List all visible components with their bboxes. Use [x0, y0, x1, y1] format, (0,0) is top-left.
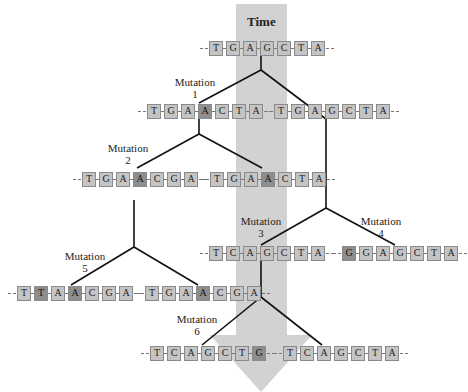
base: G: [325, 104, 339, 119]
sequence-mutation-4: G G A G C T A: [332, 245, 468, 261]
sequence-mutation-1-copy: T G A A C T A: [200, 171, 336, 187]
base: G: [201, 346, 215, 361]
mutation-2-label: Mutation 2: [103, 142, 153, 166]
base: G: [102, 286, 116, 301]
base: A: [184, 346, 198, 361]
base: T: [359, 104, 373, 119]
base: C: [351, 346, 365, 361]
base: C: [342, 104, 356, 119]
base: G: [260, 41, 274, 56]
sequence-mutation-6: T C A G C T G: [140, 345, 276, 361]
base: T: [145, 286, 159, 301]
sequence-mutation-1: T G A A C T A: [137, 103, 273, 119]
mutated-base: A: [198, 104, 212, 119]
base: T: [294, 246, 308, 261]
base: A: [311, 41, 325, 56]
base: T: [427, 246, 441, 261]
base: T: [274, 104, 288, 119]
base: A: [243, 41, 257, 56]
base: C: [85, 286, 99, 301]
base: A: [116, 172, 130, 187]
base: G: [359, 246, 373, 261]
base: C: [218, 346, 232, 361]
base: A: [184, 172, 198, 187]
base: G: [99, 172, 113, 187]
base: T: [232, 104, 246, 119]
base: C: [300, 346, 314, 361]
sequence-mutation-2: T G A A C G A: [72, 171, 208, 187]
base: G: [230, 286, 244, 301]
base: T: [210, 172, 224, 187]
base: T: [294, 41, 308, 56]
base: A: [376, 104, 390, 119]
base: A: [308, 104, 322, 119]
base: A: [444, 246, 458, 261]
base: T: [235, 346, 249, 361]
base: G: [167, 172, 181, 187]
mutation-6-label: Mutation 6: [172, 313, 222, 337]
base: T: [368, 346, 382, 361]
base: A: [119, 286, 133, 301]
base: C: [213, 286, 227, 301]
mutated-base: A: [133, 172, 147, 187]
base: C: [215, 104, 229, 119]
base: G: [291, 104, 305, 119]
base: A: [181, 104, 195, 119]
base: A: [311, 246, 325, 261]
mutated-base: A: [261, 172, 275, 187]
base: C: [278, 172, 292, 187]
base: A: [376, 246, 390, 261]
base: G: [226, 41, 240, 56]
sequence-mutation-5: T T A A C G A: [7, 285, 143, 301]
base: G: [334, 346, 348, 361]
mutation-1-label: Mutation 1: [170, 76, 220, 100]
base: A: [312, 172, 326, 187]
base: A: [247, 286, 261, 301]
mutated-base: A: [68, 286, 82, 301]
base: G: [227, 172, 241, 187]
base: G: [162, 286, 176, 301]
sequence-mutation-2-copy: T G A A C G A: [135, 285, 271, 301]
base: C: [150, 172, 164, 187]
mutation-4-label: Mutation 4: [356, 215, 406, 239]
base: G: [260, 246, 274, 261]
mutated-base: G: [342, 246, 356, 261]
sequence-unchanged-right: T G A G C T A: [264, 103, 400, 119]
base: C: [226, 246, 240, 261]
mutation-3-label: Mutation 3: [236, 215, 286, 239]
base: C: [277, 41, 291, 56]
base: G: [164, 104, 178, 119]
base: A: [179, 286, 193, 301]
sequence-root: T G A G C T A: [199, 40, 335, 56]
base: A: [244, 172, 258, 187]
base: C: [410, 246, 424, 261]
base: T: [82, 172, 96, 187]
base: T: [209, 41, 223, 56]
sequence-mutation-3-copy: T C A G C T A: [273, 345, 409, 361]
mutation-5-label: Mutation 5: [60, 250, 110, 274]
base: A: [317, 346, 331, 361]
base: T: [295, 172, 309, 187]
base: A: [385, 346, 399, 361]
base: G: [393, 246, 407, 261]
mutated-base: T: [34, 286, 48, 301]
base: T: [17, 286, 31, 301]
mutated-base: A: [196, 286, 210, 301]
base: T: [283, 346, 297, 361]
base: T: [150, 346, 164, 361]
base: A: [243, 246, 257, 261]
base: A: [51, 286, 65, 301]
base: C: [167, 346, 181, 361]
sequence-mutation-3: T C A G C T A: [199, 245, 335, 261]
base: A: [249, 104, 263, 119]
base: T: [209, 246, 223, 261]
base: T: [147, 104, 161, 119]
mutated-base: G: [252, 346, 266, 361]
base: C: [277, 246, 291, 261]
